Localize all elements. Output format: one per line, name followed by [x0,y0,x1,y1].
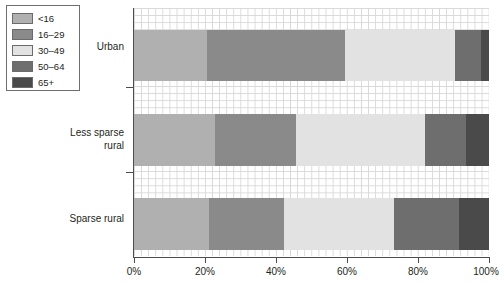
legend-item: 65+ [12,74,79,90]
x-axis-label-100: 100% [473,266,499,278]
stacked-bar-chart: <16 16–29 30–49 50–64 65+ Urban Less spa… [0,0,503,285]
bar-segment-sparse-rural-16-29 [209,198,284,250]
x-axis-tick-100 [489,258,490,263]
bar-group-less-sparse-rural [134,114,489,166]
y-axis-label-urban: Urban [14,40,124,53]
bar-segment-less-sparse-rural-30-49 [296,114,425,166]
legend-swatch-16-29 [12,29,33,40]
legend-item: 50–64 [12,58,79,74]
y-axis-tick-separator [126,87,134,88]
bar-segment-less-sparse-rural-under-16 [134,114,215,166]
bar-segment-urban-65-plus [481,30,489,81]
legend-swatch-under-16 [12,13,33,24]
bar-segment-sparse-rural-65-plus [459,198,489,250]
x-axis-label-60: 60% [337,266,357,278]
bar-segment-less-sparse-rural-16-29 [215,114,296,166]
bar-group-sparse-rural [134,198,489,250]
bar-segment-urban-under-16 [134,30,207,81]
bar-segment-sparse-rural-50-64 [394,198,459,250]
x-axis-tick-80 [418,258,419,263]
legend-swatch-50-64 [12,61,33,72]
x-axis-label-40: 40% [266,266,286,278]
y-axis-tick-separator [126,172,134,173]
y-axis-label-less-sparse-rural: Less sparse rural [14,126,124,152]
legend-label-under-16: <16 [38,13,54,24]
x-axis-tick-60 [347,258,348,263]
y-axis-label-sparse-rural: Sparse rural [14,212,124,225]
x-axis-label-20: 20% [195,266,215,278]
bar-segment-sparse-rural-30-49 [284,198,394,250]
x-axis-line [133,257,490,258]
legend-swatch-65-plus [12,77,33,88]
x-axis-tick-0 [134,258,135,263]
x-axis-label-80: 80% [408,266,428,278]
x-axis-label-0: 0% [127,266,141,278]
plot-area [134,8,489,256]
legend-label-65-plus: 65+ [38,77,54,88]
legend-item: <16 [12,10,79,26]
x-axis-tick-20 [205,258,206,263]
bar-segment-urban-50-64 [455,30,481,81]
x-axis-tick-40 [276,258,277,263]
bar-group-urban [134,30,489,81]
y-axis-line [133,8,134,258]
legend-label-16-29: 16–29 [38,29,64,40]
bar-segment-less-sparse-rural-50-64 [425,114,466,166]
legend-label-50-64: 50–64 [38,61,64,72]
bar-segment-urban-16-29 [207,30,345,81]
bar-segment-urban-30-49 [345,30,455,81]
bar-segment-less-sparse-rural-65-plus [466,114,489,166]
bar-segment-sparse-rural-under-16 [134,198,209,250]
